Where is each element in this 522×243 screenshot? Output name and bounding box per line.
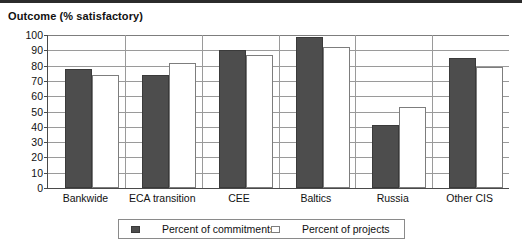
bar-percent-of-commitments <box>296 37 323 188</box>
bar-group <box>125 35 202 188</box>
bar-percent-of-projects <box>476 67 503 188</box>
x-axis-tick-label: Other CIS <box>431 192 508 204</box>
y-axis-tick-label: 80 <box>13 61 43 71</box>
chart-title: Outcome (% satisfactory) <box>8 10 143 22</box>
bar-percent-of-projects <box>92 75 119 188</box>
bar-percent-of-projects <box>169 63 196 188</box>
bar-percent-of-projects <box>399 107 426 188</box>
bar-percent-of-commitments <box>372 125 399 188</box>
bar-group <box>48 35 125 188</box>
legend-entry: Percent of commitments <box>131 220 275 238</box>
y-axis-tick-label: 40 <box>13 122 43 132</box>
dark-swatch <box>131 226 140 233</box>
group-separator <box>125 35 126 188</box>
x-axis-tick-label: ECA transition <box>124 192 201 204</box>
y-axis-labels: 1009080706050403020100 <box>10 35 43 188</box>
y-axis-tick-label: 100 <box>13 30 43 40</box>
y-axis-tick-label: 90 <box>13 45 43 55</box>
bar-percent-of-projects <box>323 47 350 188</box>
y-axis-tick-label: 30 <box>13 137 43 147</box>
x-axis-tick-label: Bankwide <box>47 192 124 204</box>
x-axis-tick-label: Baltics <box>278 192 355 204</box>
y-axis-tick-label: 10 <box>13 168 43 178</box>
bar-percent-of-commitments <box>449 58 476 188</box>
legend-entry: Percent of projects <box>271 220 390 238</box>
bar-group <box>202 35 279 188</box>
legend-label: Percent of projects <box>302 223 390 235</box>
bar-percent-of-commitments <box>219 50 246 188</box>
y-axis-tick-mark <box>44 188 48 189</box>
group-separator <box>432 35 433 188</box>
chart-figure: Outcome (% satisfactory) 100908070605040… <box>0 0 522 243</box>
x-axis-tick-label: CEE <box>201 192 278 204</box>
group-separator <box>355 35 356 188</box>
bar-group <box>432 35 509 188</box>
y-axis-tick-label: 60 <box>13 91 43 101</box>
chart-legend: Percent of commitmentsPercent of project… <box>118 219 405 239</box>
plot-area <box>47 35 509 189</box>
bar-percent-of-commitments <box>142 75 169 188</box>
bar-percent-of-projects <box>246 55 273 188</box>
bar-percent-of-commitments <box>65 69 92 188</box>
light-swatch <box>271 226 280 233</box>
y-axis-tick-label: 50 <box>13 107 43 117</box>
y-axis-tick-label: 70 <box>13 76 43 86</box>
group-separator <box>202 35 203 188</box>
legend-label: Percent of commitments <box>162 223 275 235</box>
y-axis-tick-label: 0 <box>13 183 43 193</box>
bar-group <box>279 35 356 188</box>
top-divider-rule <box>0 0 522 3</box>
x-axis-tick-label: Russia <box>354 192 431 204</box>
bar-group <box>355 35 432 188</box>
group-separator <box>279 35 280 188</box>
y-axis-tick-label: 20 <box>13 152 43 162</box>
